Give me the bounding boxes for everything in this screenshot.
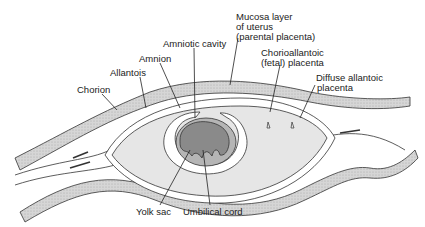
label-allantois: Allantois [110,67,146,78]
label-chorioallantoic-2: (fetal) placenta [261,57,325,68]
chorion-strand [340,130,360,133]
label-amniotic-cavity: Amniotic cavity [163,38,227,49]
placenta-diagram: Mucosa layer of uterus (parental placent… [0,0,425,227]
label-chorion: Chorion [77,84,110,95]
label-mucosa-3: (parental placenta) [236,31,315,42]
leader-mucosa [230,38,238,85]
label-diffuse-2: placenta [317,82,354,93]
chorion-strand [73,152,88,158]
label-yolk-sac: Yolk sac [136,206,171,217]
label-amnion: Amnion [139,53,171,64]
label-umbilical-cord: Umbilical cord [183,206,243,217]
chorion-strand [70,162,90,168]
leader-chorion [102,94,117,110]
